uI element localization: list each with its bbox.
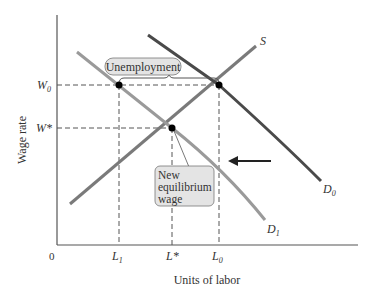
x-tick-lstar: L* xyxy=(165,249,179,263)
supply-label: S xyxy=(260,34,266,48)
new-equilibrium-label-line1: New xyxy=(158,169,180,181)
y-axis-title: Wage rate xyxy=(15,116,29,164)
demand-initial-label: D0 xyxy=(322,182,336,198)
origin-label: 0 xyxy=(49,250,55,262)
demand-new-label: D1 xyxy=(266,222,280,238)
point-w0-l0 xyxy=(216,82,223,89)
point-equilibrium-new xyxy=(169,125,176,132)
y-tick-wstar: W* xyxy=(36,121,52,135)
unemployment-label: Unemployment xyxy=(106,60,181,74)
y-tick-w0: W0 xyxy=(37,78,51,94)
guide-lines xyxy=(57,85,219,245)
x-axis-title: Units of labor xyxy=(174,273,241,287)
new-equilibrium-label-line3: wage xyxy=(158,193,182,206)
left-arrow-icon xyxy=(228,156,271,166)
labor-market-diagram: Unemployment New equilibrium wage S D0 D… xyxy=(0,0,379,293)
x-tick-l0: L0 xyxy=(211,249,223,265)
x-tick-l1: L1 xyxy=(111,249,123,265)
point-w0-l1 xyxy=(116,82,123,89)
